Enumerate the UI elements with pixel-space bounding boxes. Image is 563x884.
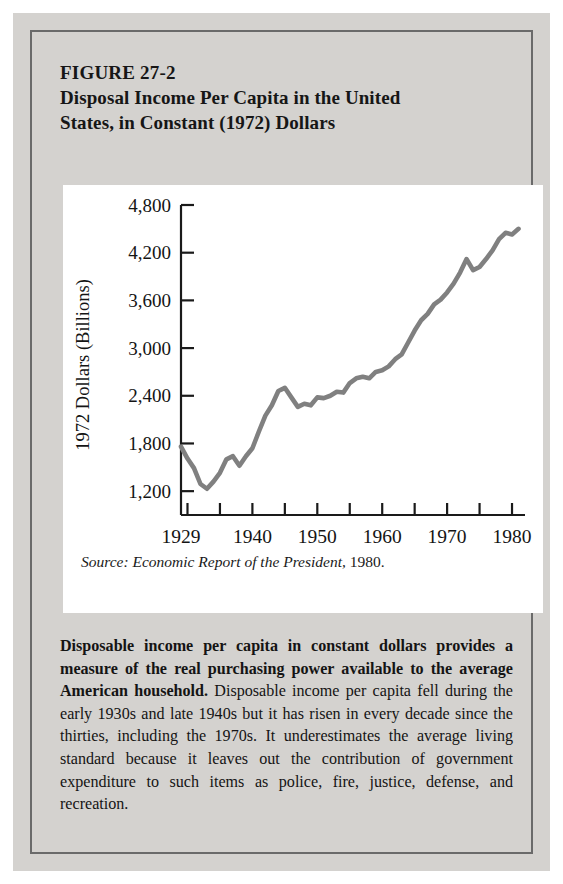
x-tick-label: 1940: [233, 526, 272, 545]
x-axis-tick-labels: 192919401950196019701980: [162, 526, 532, 545]
y-tick-label: 1,200: [128, 481, 171, 502]
y-axis-title-text: 1972 Dollars (Billions): [73, 279, 94, 451]
figure-title-line-2: States, in Constant (1972) Dollars: [60, 110, 500, 135]
figure-title-line-1: Disposal Income Per Capita in the United: [60, 85, 500, 110]
y-tick-label: 3,600: [128, 290, 171, 311]
y-tick-label: 4,200: [128, 242, 171, 263]
y-tick-label: 3,000: [128, 338, 171, 359]
y-tick-label: 2,400: [128, 385, 171, 406]
figure-page: FIGURE 27-2 Disposal Income Per Capita i…: [13, 13, 550, 871]
x-tick-label: 1980: [493, 526, 532, 545]
x-axis-ticks: [187, 503, 512, 515]
figure-title-block: FIGURE 27-2 Disposal Income Per Capita i…: [60, 60, 500, 135]
x-tick-label: 1950: [298, 526, 337, 545]
figure-number: FIGURE 27-2: [60, 60, 500, 85]
x-tick-label: 1929: [162, 526, 201, 545]
source-year: 1980.: [350, 553, 385, 570]
series-line-disposable-income: [181, 229, 519, 489]
source-text: Source: Economic Report of the President…: [81, 553, 346, 570]
line-chart: 1972 Dollars (Billions) 1,2001,8002,4003…: [63, 185, 543, 545]
y-tick-label: 1,800: [128, 433, 171, 454]
x-tick-label: 1970: [428, 526, 467, 545]
chart-source-note: Source: Economic Report of the President…: [81, 553, 385, 571]
y-axis-title: 1972 Dollars (Billions): [73, 279, 94, 451]
y-tick-label: 4,800: [128, 195, 171, 216]
figure-caption: Disposable income per capita in constant…: [60, 635, 513, 816]
x-tick-label: 1960: [363, 526, 402, 545]
caption-body: Disposable income per capita fell during…: [60, 682, 513, 812]
chart-panel: 1972 Dollars (Billions) 1,2001,8002,4003…: [63, 185, 543, 613]
